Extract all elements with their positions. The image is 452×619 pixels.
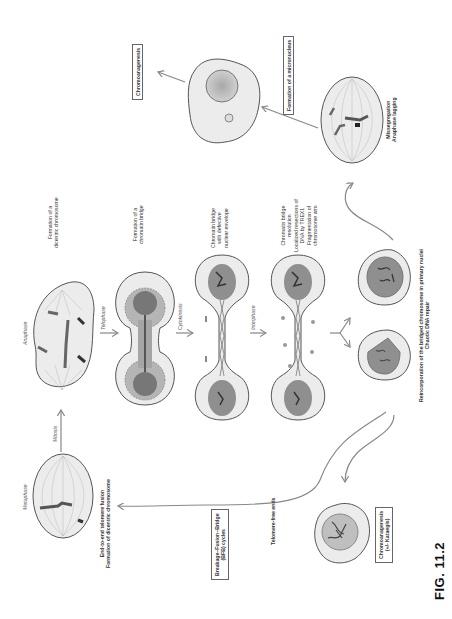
- label-reincorporation: Reincorporation of the bridged chromosom…: [418, 249, 431, 402]
- micronucleus-cell: [188, 59, 260, 143]
- label-bridge-resolution: Chromatin bridge resolution Localized re…: [280, 199, 318, 252]
- metaphase-cell: [33, 454, 93, 538]
- label-telomere-free-ends: Telomere-free ends: [270, 498, 276, 545]
- label-anaphase: Anaphase: [22, 322, 28, 345]
- box-bfb-cycles: Breakage–Fusion–Bridge (BFB) cycles: [211, 509, 229, 580]
- label-telophase: Telophase: [100, 306, 106, 330]
- bridge-resolution-cell: [271, 255, 324, 420]
- cytokinesis-cell: [195, 255, 248, 420]
- arrow-to-missegregation: [345, 183, 393, 240]
- bfb-cycle-arrow: [118, 412, 386, 506]
- figure-caption: FIG. 11.2: [432, 542, 447, 600]
- label-metaphase: Metaphase: [22, 484, 28, 510]
- label-defective-envelope: Chromatin bridge with defective nuclear …: [210, 208, 229, 248]
- chromoanagenesis-cell-bottom: [315, 503, 370, 562]
- anaphase-cell: [34, 282, 94, 390]
- label-interphase: Interphase: [250, 305, 256, 330]
- missegregation-cell: [321, 77, 383, 163]
- telophase-cell: [116, 272, 175, 405]
- label-missegregation: Missegregation Anaphase lagging: [385, 97, 398, 142]
- box-micronucleus: Formation of a micronucleus: [283, 36, 294, 115]
- label-chromatin-bridge: Formation of a chromatin bridge: [132, 205, 145, 244]
- daughter-cell-right: [358, 330, 410, 380]
- label-mitosis: Mitosis: [52, 426, 58, 442]
- split-arrow: [330, 318, 350, 347]
- box-chromoanagenesis-top: Chromoanagenesis: [132, 44, 143, 100]
- label-dicentric: Formation of a dicentric chromosome: [47, 197, 60, 248]
- daughter-cell-left: [358, 250, 410, 305]
- label-end-to-end-fusion: End-to-end telomere fusion Formation of …: [99, 479, 112, 568]
- box-chromoanagenesis-bottom: Chromoanagenesis (+/- Kataegis): [375, 507, 393, 563]
- arrow-to-chromoanagenesis-bottom: [345, 415, 394, 482]
- label-cytokinesis: Cytokinesis: [177, 303, 183, 330]
